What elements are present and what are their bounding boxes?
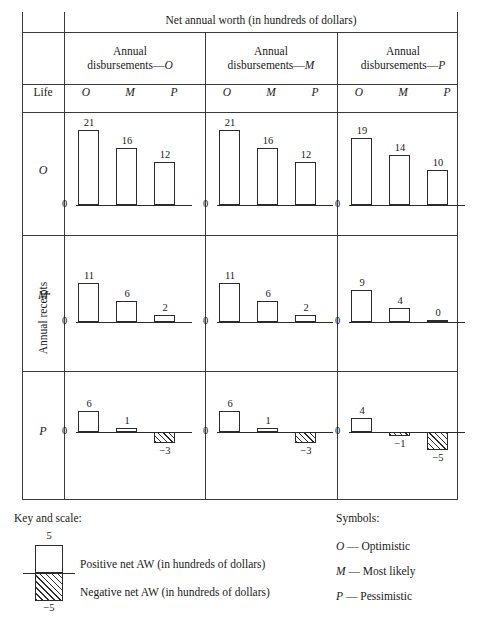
zero-axis-line — [217, 322, 333, 323]
row-label-o: O — [22, 163, 64, 178]
grid-row-hdrend — [22, 112, 458, 113]
symbols-title: Symbols: — [336, 512, 379, 524]
bar-value-label: −3 — [150, 445, 180, 456]
bar-m — [116, 148, 137, 205]
zero-axis-label: 0 — [62, 199, 67, 209]
symbol-letter: M — [336, 565, 346, 577]
sub-header-o: O — [64, 86, 108, 98]
bar-o — [78, 130, 99, 205]
grid-row-top — [22, 32, 458, 33]
bar-m — [257, 301, 278, 322]
bar-o — [78, 411, 99, 432]
column-group-line2: disbursements— — [228, 59, 305, 71]
bar-value-label: 12 — [150, 149, 180, 160]
bar-value-label: 11 — [74, 270, 104, 281]
bar-o — [351, 138, 372, 205]
symbol-letter: P — [336, 590, 343, 602]
bar-value-label: 16 — [253, 135, 283, 146]
zero-axis-label: 0 — [62, 316, 67, 326]
bar-p — [154, 432, 175, 443]
zero-axis-label: 0 — [335, 316, 340, 326]
bar-value-label: 12 — [291, 149, 321, 160]
symbol-row-most-likely: M — Most likely — [336, 565, 416, 577]
zero-axis-label: 0 — [62, 426, 67, 436]
life-label: Life — [22, 86, 64, 98]
bar-value-label: 2 — [291, 302, 321, 313]
sub-headers-o: O M P — [64, 86, 196, 98]
bar-value-label: 6 — [74, 398, 104, 409]
bar-p — [295, 315, 316, 322]
bar-p — [154, 315, 175, 322]
zero-axis-label: 0 — [203, 199, 208, 209]
bar-m — [389, 308, 410, 322]
bar-value-label: −1 — [385, 438, 415, 449]
symbol-row-optimistic: O — Optimistic — [336, 540, 410, 552]
zero-axis-label: 0 — [335, 199, 340, 209]
zero-axis-label: 0 — [203, 316, 208, 326]
figure-page: Annual receipts Net annual worth (in hun… — [0, 0, 480, 618]
sub-header-p: P — [293, 86, 337, 98]
bar-p — [295, 162, 316, 205]
zero-axis-line — [349, 322, 465, 323]
bar-m — [116, 301, 137, 322]
grid-row-1 — [22, 235, 458, 236]
column-group-line1: Annual — [113, 45, 147, 57]
symbol-meaning: Pessimistic — [360, 590, 412, 602]
bar-value-label: 14 — [385, 142, 415, 153]
bar-value-label: 0 — [423, 307, 453, 318]
bar-value-label: 16 — [112, 135, 142, 146]
bar-o — [219, 130, 240, 205]
bar-o — [219, 283, 240, 322]
grid-row-2 — [22, 371, 458, 372]
bar-p — [427, 320, 448, 323]
bar-value-label: 4 — [385, 295, 415, 306]
column-group-tag: M — [305, 59, 315, 71]
column-group-header-p: Annual disbursements—P — [337, 44, 469, 72]
bar-value-label: 2 — [150, 302, 180, 313]
key-negative-swatch — [35, 573, 63, 601]
bar-o — [351, 290, 372, 322]
symbol-meaning: Optimistic — [362, 540, 411, 552]
bar-m — [257, 148, 278, 205]
key-title: Key and scale: — [14, 512, 82, 524]
sub-headers-p: O M P — [337, 86, 469, 98]
column-group-line2: disbursements— — [361, 59, 438, 71]
bar-value-label: 11 — [215, 270, 245, 281]
bar-value-label: −3 — [291, 445, 321, 456]
column-group-line2: disbursements— — [87, 59, 164, 71]
sub-headers-m: O M P — [205, 86, 337, 98]
bar-value-label: 6 — [215, 398, 245, 409]
grid-row-subhdr — [22, 84, 458, 85]
bar-m — [389, 155, 410, 205]
column-group-header-o: Annual disbursements—O — [64, 44, 196, 72]
bar-value-label: 21 — [74, 117, 104, 128]
column-group-line1: Annual — [254, 45, 288, 57]
key-positive-swatch — [35, 545, 63, 573]
key-scale-bottom-label: −5 — [35, 602, 63, 613]
zero-axis-line — [217, 205, 333, 206]
bar-o — [78, 283, 99, 322]
column-group-line1: Annual — [386, 45, 420, 57]
sub-header-p: P — [152, 86, 196, 98]
symbol-dash: — — [346, 565, 363, 577]
sub-header-o: O — [205, 86, 249, 98]
y-axis-title: Annual receipts — [37, 258, 49, 378]
bar-value-label: 9 — [347, 277, 377, 288]
bar-value-label: 6 — [112, 288, 142, 299]
key-zero-axis — [23, 573, 75, 574]
bar-p — [295, 432, 316, 443]
row-label-m: M — [22, 288, 64, 303]
row-label-p: P — [22, 424, 64, 439]
key-scale-top-label: 5 — [35, 530, 63, 541]
bar-m — [116, 428, 137, 432]
symbol-meaning: Most likely — [363, 565, 416, 577]
sub-header-m: M — [381, 86, 425, 98]
zero-axis-line — [349, 205, 465, 206]
column-group-header-m: Annual disbursements—M — [205, 44, 337, 72]
zero-axis-label: 0 — [203, 426, 208, 436]
symbol-row-pessimistic: P — Pessimistic — [336, 590, 412, 602]
bar-p — [427, 170, 448, 206]
column-group-tag: O — [165, 59, 173, 71]
figure-title: Net annual worth (in hundreds of dollars… — [64, 14, 458, 26]
bar-value-label: 10 — [423, 157, 453, 168]
